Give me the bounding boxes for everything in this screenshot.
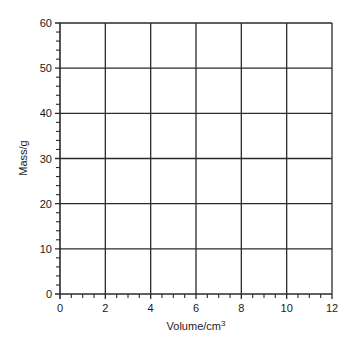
y-tick-label: 30 [40,153,52,165]
x-axis-label: Volume/cm3 [167,319,226,332]
x-tick-label: 0 [57,302,63,314]
x-tick-label: 10 [281,302,293,314]
y-axis-label: Mass/g [17,140,29,175]
y-tick-label: 10 [40,243,52,255]
x-tick-labels: 024681012 [57,302,338,314]
x-tick-label: 2 [102,302,108,314]
y-tick-label: 20 [40,198,52,210]
grid-lines [55,23,332,299]
mass-volume-chart: 024681012 0102030405060 Volume/cm3 Mass/… [0,0,353,352]
y-tick-label: 0 [46,288,52,300]
axis-ticks [56,32,321,298]
y-tick-label: 40 [40,107,52,119]
x-tick-label: 12 [326,302,338,314]
y-tick-labels: 0102030405060 [40,17,52,300]
x-tick-label: 8 [238,302,244,314]
y-tick-label: 60 [40,17,52,29]
x-tick-label: 4 [148,302,154,314]
y-tick-label: 50 [40,62,52,74]
x-tick-label: 6 [193,302,199,314]
